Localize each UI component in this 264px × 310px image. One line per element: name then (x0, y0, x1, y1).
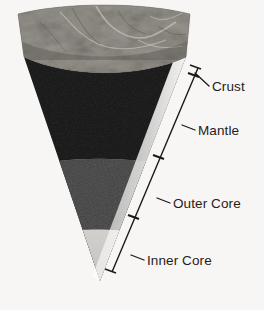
bracket-cap-bottom (105, 269, 116, 273)
leader-mantle (182, 125, 195, 130)
leader-crust (195, 73, 209, 86)
leader-outer-core (157, 198, 170, 203)
label-outer-core: Outer Core (173, 196, 241, 211)
label-mantle: Mantle (198, 123, 239, 138)
label-inner-core: Inner Core (147, 253, 212, 268)
leader-inner-core (131, 255, 144, 260)
tick-outer-inner-core (128, 215, 139, 219)
earth-interior-diagram: Crust Mantle Outer Core Inner Core (0, 0, 264, 310)
bracket-cap-top (190, 65, 201, 69)
label-crust: Crust (212, 79, 245, 94)
earth-cutaway-figure: Crust Mantle Outer Core Inner Core (0, 0, 264, 310)
tick-mantle-outer-core (153, 155, 164, 159)
